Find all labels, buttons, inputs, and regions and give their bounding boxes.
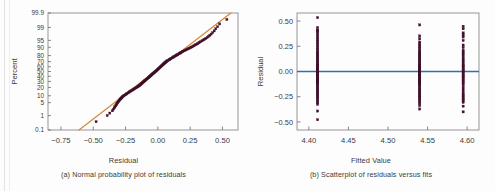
y-tick-label: 0.1 <box>35 126 44 133</box>
x-tick-label: 0.00 <box>150 136 165 145</box>
data-point <box>316 103 318 105</box>
fitted-4.54-points <box>419 24 421 110</box>
data-point <box>215 28 217 30</box>
data-point <box>462 83 464 85</box>
x-tick-label: 0.50 <box>215 136 230 145</box>
x-tick-label: −0.75 <box>51 136 70 145</box>
fitted-4.595-points <box>462 25 464 113</box>
y-tick-label: 80 <box>37 52 45 59</box>
panel-a-yaxis-title: Percent <box>10 58 19 85</box>
data-point <box>462 25 464 27</box>
y-tick-label: 10 <box>37 92 45 99</box>
x-tick-label: 0.25 <box>183 136 198 145</box>
data-point <box>419 104 421 106</box>
plot-frame <box>48 13 238 130</box>
data-point <box>316 110 318 112</box>
panel-a-xaxis-title: Residual <box>0 156 247 165</box>
data-point <box>419 38 421 40</box>
y-tick-label: 0.25 <box>279 42 293 51</box>
data-point <box>226 18 228 20</box>
y-tick-label: −0.50 <box>274 118 293 127</box>
panel-residuals-versus-fits: −0.50−0.250.000.250.504.404.454.504.554.… <box>247 0 495 191</box>
panel-b-caption: (b) Scatterplot of residuals versus fits <box>247 170 495 179</box>
x-tick-label: −0.50 <box>84 136 103 145</box>
panel-b-yaxis-title: Residual <box>256 56 265 86</box>
data-point <box>213 30 215 32</box>
y-tick-label: −0.25 <box>274 92 293 101</box>
data-point <box>419 24 421 26</box>
y-tick-label: 99.9 <box>32 9 45 16</box>
y-tick-label: 70 <box>37 58 45 65</box>
data-point <box>462 88 464 90</box>
data-point <box>419 108 421 110</box>
y-tick-label: 1 <box>40 112 44 119</box>
x-tick-label: 4.50 <box>381 136 396 145</box>
data-point <box>95 121 97 123</box>
figure-page: 0.115102030405060708090959999.9−0.75−0.5… <box>0 0 495 191</box>
panel-b-xaxis-title: Fitted Value <box>247 156 495 165</box>
data-point <box>462 44 464 46</box>
data-point <box>316 16 318 18</box>
y-tick-label: 90 <box>37 44 45 51</box>
y-tick-label: 0.50 <box>279 17 293 26</box>
panel-b-content: −0.50−0.250.000.250.504.404.454.504.554.… <box>256 13 479 145</box>
data-point <box>216 26 218 28</box>
x-tick-label: 4.45 <box>341 136 356 145</box>
data-point <box>462 101 464 103</box>
x-tick-label: −0.25 <box>116 136 135 145</box>
y-tick-label: 0.00 <box>279 67 293 76</box>
data-point <box>462 39 464 41</box>
data-point <box>219 23 221 25</box>
x-tick-label: 4.55 <box>420 136 435 145</box>
data-point <box>462 111 464 113</box>
panel-a-caption: (a) Normal probability plot of residuals <box>0 170 247 179</box>
data-point <box>419 35 421 37</box>
data-point <box>462 85 464 87</box>
x-tick-label: 4.60 <box>460 136 475 145</box>
panel-a-content: 0.115102030405060708090959999.9−0.75−0.5… <box>10 9 238 145</box>
y-tick-label: 5 <box>40 99 44 106</box>
data-point <box>462 105 464 107</box>
y-tick-label: 95 <box>37 37 45 44</box>
y-tick-label: 99 <box>37 24 45 31</box>
y-tick-label: 20 <box>37 84 45 91</box>
panel-normal-probability-plot: 0.115102030405060708090959999.9−0.75−0.5… <box>0 0 247 191</box>
normal-probability-plot-svg: 0.115102030405060708090959999.9−0.75−0.5… <box>0 0 247 152</box>
data-point <box>106 114 108 116</box>
data-point <box>462 90 464 92</box>
data-point <box>462 28 464 30</box>
data-point <box>462 36 464 38</box>
data-point <box>462 46 464 48</box>
x-tick-label: 4.40 <box>301 136 316 145</box>
data-point <box>109 112 111 114</box>
residual-quantile-points <box>95 18 228 122</box>
data-point <box>316 26 318 28</box>
fitted-4.41-points <box>316 16 318 120</box>
data-point <box>316 119 318 121</box>
residuals-versus-fits-svg: −0.50−0.250.000.250.504.404.454.504.554.… <box>247 0 495 152</box>
